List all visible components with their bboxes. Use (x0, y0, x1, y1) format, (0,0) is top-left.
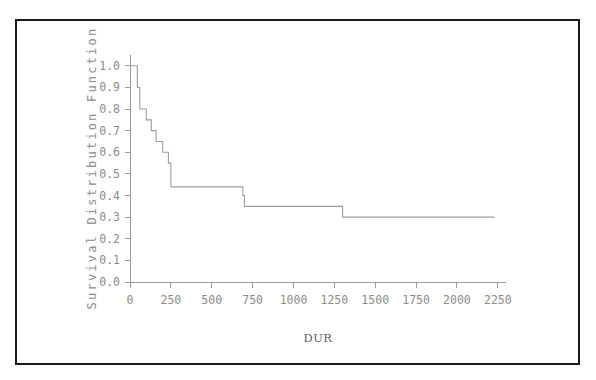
x-tick-label: 0 (127, 293, 134, 307)
x-axis-ticks: 0250500750100012501500175020002250 (127, 282, 512, 307)
x-tick-label: 750 (242, 293, 263, 307)
y-tick-label: 0.7 (99, 124, 120, 138)
y-tick-label: 0.5 (99, 167, 120, 181)
x-tick-label: 1750 (402, 293, 430, 307)
figure-page: 0.00.10.20.30.40.50.60.70.80.91.0 025050… (0, 0, 596, 380)
x-tick-label: 1000 (280, 293, 308, 307)
x-tick-label: 1250 (320, 293, 348, 307)
y-axis-ticks: 0.00.10.20.30.40.50.60.70.80.91.0 (99, 59, 130, 289)
x-tick-label: 500 (201, 293, 222, 307)
y-tick-label: 0.9 (99, 80, 120, 94)
survival-curve-chart: 0.00.10.20.30.40.50.60.70.80.91.0 025050… (0, 0, 596, 380)
x-axis-title: DUR (303, 331, 332, 345)
y-tick-label: 0.2 (99, 232, 120, 246)
y-tick-label: 0.8 (99, 102, 120, 116)
chart-canvas: 0.00.10.20.30.40.50.60.70.80.91.0 025050… (0, 0, 596, 380)
y-tick-label: 1.0 (99, 59, 120, 73)
x-tick-label: 250 (160, 293, 181, 307)
y-tick-label: 0.6 (99, 145, 120, 159)
x-tick-label: 1500 (361, 293, 389, 307)
survival-step-curve (130, 66, 495, 217)
y-tick-label: 0.0 (99, 275, 120, 289)
y-tick-label: 0.3 (99, 210, 120, 224)
y-axis-title: Survival Distribution Function (85, 27, 99, 310)
y-tick-label: 0.1 (99, 253, 120, 267)
x-tick-label: 2250 (484, 293, 512, 307)
x-tick-label: 2000 (443, 293, 471, 307)
y-tick-label: 0.4 (99, 189, 120, 203)
